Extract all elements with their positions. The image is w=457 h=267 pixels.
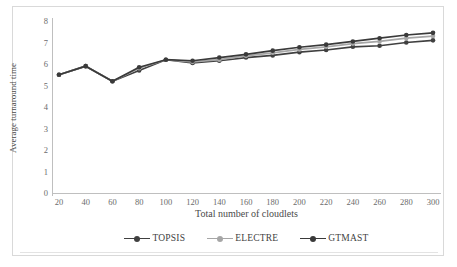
y-tick-label: 7: [26, 39, 48, 48]
y-tick-label: 3: [26, 125, 48, 134]
x-tick-label: 280: [400, 197, 413, 207]
legend-marker-icon: [300, 234, 326, 243]
data-point: [324, 42, 329, 47]
plot-area: [52, 21, 440, 193]
x-tick-label: 80: [135, 197, 144, 207]
data-point: [217, 55, 222, 60]
data-point: [270, 48, 275, 53]
legend-marker-icon: [207, 234, 233, 243]
x-tick-label: 120: [186, 197, 199, 207]
x-axis-title: Total number of cloudlets: [52, 208, 441, 220]
x-tick-label: 180: [266, 197, 279, 207]
x-tick-label: 60: [108, 197, 117, 207]
data-point: [431, 31, 436, 36]
x-tick-label: 20: [55, 197, 64, 207]
data-point: [431, 38, 436, 43]
legend-marker-icon: [124, 234, 150, 243]
legend-item-gtmast[interactable]: GTMAST: [300, 233, 368, 244]
series-line: [59, 40, 433, 81]
y-tick-label: 5: [26, 82, 48, 91]
x-tick-label: 140: [213, 197, 226, 207]
y-tick-label: 8: [26, 17, 48, 26]
data-point: [190, 58, 195, 63]
x-tick-label: 220: [320, 197, 333, 207]
y-axis-title: Average turnaround time: [8, 48, 18, 168]
data-point: [404, 40, 409, 45]
x-tick-label: 260: [373, 197, 386, 207]
y-tick-label: 6: [26, 60, 48, 69]
data-point: [377, 36, 382, 41]
y-tick-label: 1: [26, 168, 48, 177]
y-tick-label: 4: [26, 103, 48, 112]
series-layer: [52, 21, 440, 193]
data-point: [164, 57, 169, 62]
x-tick-label: 200: [293, 197, 306, 207]
series-topsis: [57, 38, 436, 83]
legend-divider: [20, 252, 438, 253]
x-tick-label: 100: [159, 197, 172, 207]
legend-label: TOPSIS: [152, 233, 185, 244]
x-tick-label: 240: [346, 197, 359, 207]
data-point: [83, 64, 88, 69]
y-tick-label: 0: [26, 189, 48, 198]
chart-figure: 012345678 204060801001201401601802002202…: [0, 0, 457, 267]
x-tick-label: 40: [81, 197, 90, 207]
data-point: [351, 39, 356, 44]
legend-item-electre[interactable]: ELECTRE: [207, 233, 278, 244]
legend-item-topsis[interactable]: TOPSIS: [124, 233, 185, 244]
data-point: [244, 52, 249, 57]
legend-label: ELECTRE: [235, 233, 278, 244]
data-point: [57, 72, 62, 77]
data-point: [110, 79, 115, 84]
x-axis-line: [52, 193, 441, 194]
chart-legend: TOPSISELECTREGTMAST: [52, 233, 441, 244]
y-axis-tick-labels: 012345678: [20, 0, 48, 267]
y-tick-label: 2: [26, 146, 48, 155]
legend-label: GTMAST: [328, 233, 368, 244]
x-tick-label: 160: [240, 197, 253, 207]
data-point: [297, 45, 302, 50]
x-tick-label: 300: [427, 197, 440, 207]
data-point: [377, 43, 382, 48]
data-point: [137, 65, 142, 70]
data-point: [404, 33, 409, 38]
